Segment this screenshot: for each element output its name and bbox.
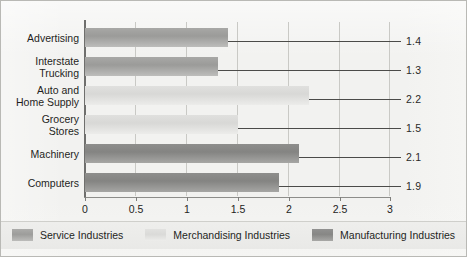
plot-area bbox=[84, 22, 390, 196]
legend-item-manufacturing-industries: Manufacturing Industries bbox=[312, 229, 455, 241]
legend-label-manufacturing-industries: Manufacturing Industries bbox=[340, 229, 455, 241]
xtick-mark-3 bbox=[390, 197, 391, 201]
value-label-grocery-stores: 1.5 bbox=[406, 122, 421, 134]
legend-label-service-industries: Service Industries bbox=[40, 229, 123, 241]
bar-chart-figure: 1.4 1.3 2.2 1.5 2.1 1.9 Advertising Inte… bbox=[0, 0, 467, 257]
chart-legend: Service Industries Merchandising Industr… bbox=[0, 224, 467, 245]
xtick-mark-2_5 bbox=[340, 197, 341, 201]
gridline-3 bbox=[389, 22, 390, 196]
xtick-label-1: 1 bbox=[184, 203, 190, 215]
category-label-computers: Computers bbox=[0, 177, 79, 189]
bar-computers bbox=[85, 173, 279, 192]
gridline-0_5 bbox=[135, 22, 136, 196]
xtick-label-0_5: 0.5 bbox=[129, 203, 144, 215]
xtick-mark-1_5 bbox=[238, 197, 239, 201]
value-label-machinery: 2.1 bbox=[406, 151, 421, 163]
value-label-advertising: 1.4 bbox=[406, 35, 421, 47]
legend-item-service-industries: Service Industries bbox=[12, 229, 123, 241]
bar-machinery bbox=[85, 144, 299, 163]
bar-advertising bbox=[85, 28, 228, 47]
xtick-mark-0_5 bbox=[136, 197, 137, 201]
category-label-advertising: Advertising bbox=[0, 32, 79, 44]
leader-line-auto-and-home-supply bbox=[309, 99, 401, 100]
value-label-computers: 1.9 bbox=[406, 180, 421, 192]
gridline-2 bbox=[288, 22, 289, 196]
category-label-interstate-trucking: Interstate Trucking bbox=[0, 55, 79, 79]
legend-label-merchandising-industries: Merchandising Industries bbox=[173, 229, 290, 241]
xtick-label-0: 0 bbox=[82, 203, 88, 215]
xtick-label-2: 2 bbox=[286, 203, 292, 215]
bar-grocery-stores bbox=[85, 115, 238, 134]
legend-item-merchandising-industries: Merchandising Industries bbox=[145, 229, 290, 241]
legend-swatch-icon-manufacturing bbox=[312, 229, 333, 241]
bar-auto-and-home-supply bbox=[85, 86, 309, 105]
leader-line-computers bbox=[279, 186, 401, 187]
value-label-auto-and-home-supply: 2.2 bbox=[406, 93, 421, 105]
leader-line-machinery bbox=[299, 157, 401, 158]
gridline-1 bbox=[186, 22, 187, 196]
bar-interstate-trucking bbox=[85, 57, 218, 76]
gridline-2_5 bbox=[339, 22, 340, 196]
xtick-label-1_5: 1.5 bbox=[231, 203, 246, 215]
xtick-mark-2 bbox=[289, 197, 290, 201]
xtick-mark-1 bbox=[187, 197, 188, 201]
leader-line-interstate-trucking bbox=[218, 70, 401, 71]
xtick-mark-0 bbox=[85, 197, 86, 201]
leader-line-grocery-stores bbox=[238, 128, 401, 129]
legend-swatch-icon-merchandising bbox=[145, 229, 166, 241]
legend-swatch-icon-service bbox=[12, 229, 33, 241]
category-label-grocery-stores: Grocery Stores bbox=[0, 113, 79, 137]
value-label-interstate-trucking: 1.3 bbox=[406, 64, 421, 76]
gridline-1_5 bbox=[237, 22, 238, 196]
category-label-auto-and-home-supply: Auto and Home Supply bbox=[0, 84, 79, 108]
xtick-label-3: 3 bbox=[387, 203, 393, 215]
x-axis-baseline bbox=[84, 197, 390, 198]
xtick-label-2_5: 2.5 bbox=[333, 203, 348, 215]
leader-line-advertising bbox=[228, 41, 401, 42]
category-label-machinery: Machinery bbox=[0, 148, 79, 160]
